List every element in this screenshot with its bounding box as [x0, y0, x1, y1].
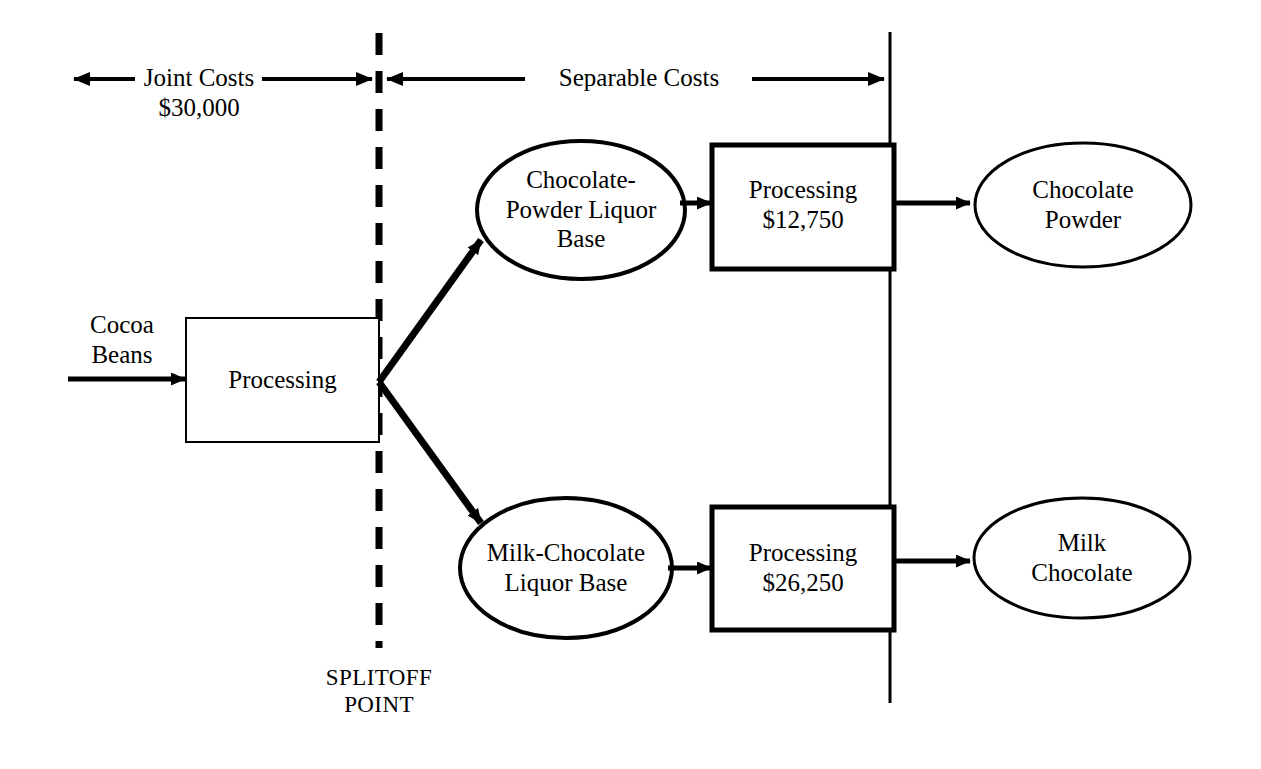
joint-processing-box [186, 318, 379, 442]
chocolate-powder-ellipse [975, 143, 1191, 267]
processing-12750-box [712, 145, 894, 269]
branch-arrow-chocolate-powder [379, 240, 481, 382]
branch-arrow-milk-chocolate [379, 382, 481, 523]
processing-26250-box [712, 507, 894, 630]
diagram-graphics-layer [0, 0, 1261, 769]
diagram-canvas: Joint Costs $30,000 Separable Costs Coco… [0, 0, 1261, 769]
milk-chocolate-liquor-base-ellipse [460, 498, 672, 638]
milk-chocolate-ellipse [974, 498, 1190, 618]
chocolate-powder-liquor-base-ellipse [477, 141, 685, 279]
